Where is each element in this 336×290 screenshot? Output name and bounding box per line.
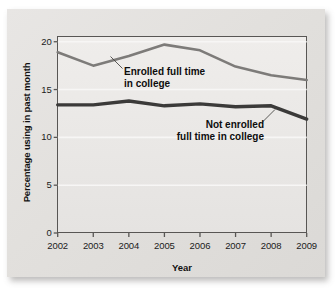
- x-axis-title: Year: [57, 262, 307, 273]
- y-tick-label: 15: [30, 84, 52, 95]
- x-tick-label: 2006: [183, 240, 217, 251]
- y-axis-tick-marks: [54, 42, 58, 233]
- y-axis-title: Percentage using in past month: [21, 58, 32, 208]
- figure-root: 05101520 2002200320042005200620072008200…: [0, 0, 336, 290]
- x-tick-label: 2008: [254, 240, 288, 251]
- x-tick-label: 2005: [147, 240, 181, 251]
- y-tick-label: 20: [30, 36, 52, 47]
- x-tick-label: 2009: [290, 240, 324, 251]
- y-tick-label: 10: [30, 131, 52, 142]
- x-tick-label: 2007: [219, 240, 253, 251]
- series-annotation-not-enrolled: Not enrolled full time in college: [152, 119, 264, 142]
- gridlines: [58, 42, 307, 185]
- x-axis-tick-marks: [58, 233, 307, 237]
- x-tick-label: 2003: [76, 240, 110, 251]
- y-tick-label: 5: [30, 179, 52, 190]
- x-tick-label: 2004: [112, 240, 146, 251]
- y-tick-label: 0: [30, 227, 52, 238]
- x-tick-label: 2002: [41, 240, 75, 251]
- series-annotation-enrolled: Enrolled full time in college: [124, 66, 205, 89]
- series-line-not-enrolled: [58, 101, 307, 119]
